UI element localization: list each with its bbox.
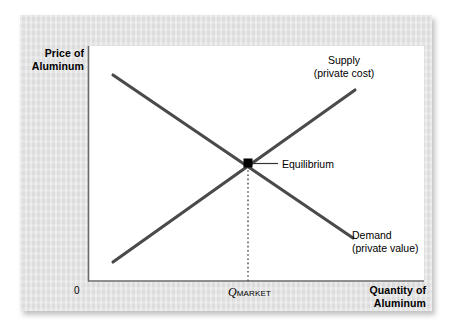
demand-label-line1: Demand [352, 229, 452, 242]
figure-container: Price of Aluminum Quantity of Aluminum S… [0, 0, 452, 335]
equilibrium-label: Equilibrium [282, 158, 334, 171]
demand-curve-label: Demand (private value) [352, 229, 452, 255]
q-market-label: QMARKET [228, 285, 271, 300]
supply-curve [113, 90, 355, 262]
origin-label: 0 [74, 285, 80, 297]
q-market-symbol: Q [228, 285, 237, 299]
equilibrium-marker [244, 159, 253, 168]
x-axis-title: Quantity of Aluminum [358, 284, 426, 310]
supply-label-line1: Supply [292, 54, 396, 67]
q-market-subscript: MARKET [237, 289, 272, 298]
demand-curve [113, 75, 353, 238]
x-axis-title-line1: Quantity of [358, 284, 426, 297]
x-axis-title-line2: Aluminum [358, 297, 426, 310]
supply-curve-label: Supply (private cost) [292, 54, 396, 80]
y-axis-title-line1: Price of [32, 47, 84, 60]
y-axis-title-line2: Aluminum [32, 60, 84, 73]
demand-label-line2: (private value) [352, 242, 452, 255]
y-axis-title: Price of Aluminum [32, 47, 84, 73]
supply-label-line2: (private cost) [292, 67, 396, 80]
